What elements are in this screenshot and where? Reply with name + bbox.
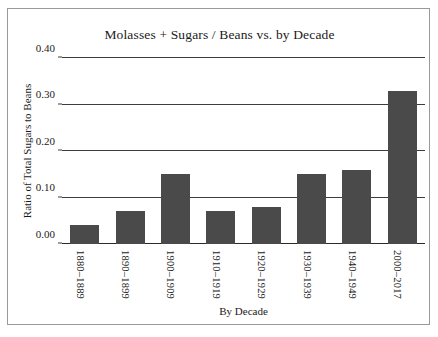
y-tick-label: 0.40 [36,42,55,53]
x-tick: 1900–1909 [153,250,198,306]
x-tick-label: 1930–1939 [301,250,312,299]
x-tick-label: 1900–1909 [165,250,176,299]
bar-slot [289,58,334,244]
bar-slot [62,58,107,244]
x-axis-title: By Decade [62,305,425,317]
y-tick-label: 0.00 [36,228,55,239]
y-tick-label: 0.20 [36,135,55,146]
bar [252,207,281,244]
bar-slot [107,58,152,244]
bar [116,211,145,244]
x-tick-label: 1940–1949 [346,250,357,299]
bar [297,174,326,244]
bar-slot [380,58,425,244]
x-tick-label: 1920–1929 [256,250,267,299]
x-tick-label: 2000–2017 [392,250,403,299]
x-tick: 1910–1919 [198,250,243,306]
bar-slot [198,58,243,244]
y-tick-label: 0.30 [36,89,55,100]
bar-series [62,58,425,244]
x-tick: 1940–1949 [334,250,379,306]
bar [342,170,371,244]
y-tick-label: 0.10 [36,182,55,193]
x-tick: 2000–2017 [380,250,425,306]
bar [70,225,99,244]
chart-title: Molasses + Sugars / Beans vs. by Decade [8,27,431,43]
plot-area: 0.000.100.200.300.40 1880–18891890–18991… [62,58,425,244]
y-axis-title: Ratio of Total Sugars to Beans [20,58,34,244]
x-tick: 1880–1889 [62,250,107,306]
x-tick-label: 1890–1899 [120,250,131,299]
bar [161,174,190,244]
bar-slot [244,58,289,244]
x-tick-label: 1880–1889 [74,250,85,299]
bar [388,91,417,244]
figure-frame: Molasses + Sugars / Beans vs. by Decade … [7,8,430,325]
bar-slot [153,58,198,244]
x-tick-label: 1910–1919 [210,250,221,299]
bar-slot [334,58,379,244]
x-tick: 1890–1899 [107,250,152,306]
x-tick: 1920–1929 [244,250,289,306]
bar [206,211,235,244]
x-tick: 1930–1939 [289,250,334,306]
bar-chart-figure: Molasses + Sugars / Beans vs. by Decade … [8,9,431,326]
